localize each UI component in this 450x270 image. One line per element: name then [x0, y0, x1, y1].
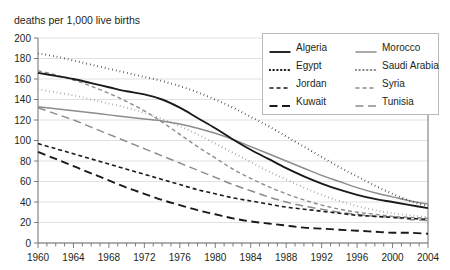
legend-item-jordan[interactable]: Jordan: [269, 76, 355, 92]
x-tick-label: 1972: [133, 252, 156, 263]
legend-item-egypt[interactable]: Egypt: [269, 58, 355, 74]
x-tick-label: 1984: [240, 252, 263, 263]
x-tick-label: 1992: [311, 252, 334, 263]
series-line-tunisia: [38, 108, 428, 221]
y-tick-label: 160: [14, 74, 31, 85]
y-tick-label: 0: [25, 238, 31, 249]
x-tick-label: 1968: [98, 252, 121, 263]
legend-label: Kuwait: [296, 97, 326, 107]
y-tick-label: 140: [14, 94, 31, 105]
y-tick-label: 200: [14, 33, 31, 44]
legend-item-syria[interactable]: Syria: [355, 76, 446, 92]
x-tick-label: 1964: [62, 252, 85, 263]
x-tick-label: 1960: [27, 252, 50, 263]
legend-label: Saudi Arabia: [382, 61, 439, 71]
x-tick-label: 1980: [204, 252, 227, 263]
series-line-kuwait: [38, 152, 428, 234]
y-tick-label: 100: [14, 135, 31, 146]
x-tick-label: 1976: [169, 252, 192, 263]
x-tick-label: 2004: [417, 252, 440, 263]
legend-grid: AlgeriaMoroccoEgyptSaudi ArabiaJordanSyr…: [263, 34, 438, 110]
legend-item-saudi-arabia[interactable]: Saudi Arabia: [355, 58, 446, 74]
legend-label: Jordan: [296, 79, 327, 89]
legend-swatch-icon: [355, 61, 377, 71]
x-tick-label: 2000: [381, 252, 404, 263]
chart-legend: AlgeriaMoroccoEgyptSaudi ArabiaJordanSyr…: [262, 33, 439, 115]
x-tick-label: 1988: [275, 252, 298, 263]
legend-swatch-icon: [355, 79, 377, 89]
series-line-morocco: [38, 107, 428, 204]
legend-label: Morocco: [382, 43, 420, 53]
legend-label: Algeria: [296, 43, 327, 53]
legend-label: Egypt: [296, 61, 322, 71]
legend-swatch-icon: [269, 79, 291, 89]
legend-swatch-icon: [269, 97, 291, 107]
legend-item-morocco[interactable]: Morocco: [355, 40, 446, 56]
x-tick-label: 1996: [346, 252, 369, 263]
legend-swatch-icon: [355, 97, 377, 107]
legend-item-tunisia[interactable]: Tunisia: [355, 94, 446, 110]
legend-item-algeria[interactable]: Algeria: [269, 40, 355, 56]
y-tick-label: 40: [20, 197, 32, 208]
legend-swatch-icon: [269, 61, 291, 71]
legend-label: Tunisia: [382, 97, 414, 107]
y-tick-label: 120: [14, 115, 31, 126]
y-tick-label: 80: [20, 156, 32, 167]
legend-item-kuwait[interactable]: Kuwait: [269, 94, 355, 110]
legend-label: Syria: [382, 79, 405, 89]
y-tick-label: 60: [20, 176, 32, 187]
infant-mortality-line-chart: deaths per 1,000 live births 02040608010…: [0, 0, 450, 270]
legend-swatch-icon: [355, 43, 377, 53]
legend-swatch-icon: [269, 43, 291, 53]
y-tick-label: 180: [14, 53, 31, 64]
y-tick-label: 20: [20, 217, 32, 228]
